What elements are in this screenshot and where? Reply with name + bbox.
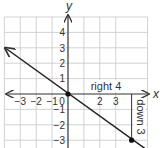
y-tick-label: −1 — [54, 104, 66, 115]
y-tick-label: 3 — [59, 43, 65, 54]
x-tick-label: −2 — [30, 96, 42, 107]
x-tick-label: 2 — [97, 96, 103, 107]
y-tick-label: 1 — [59, 73, 65, 84]
point-origin — [65, 91, 70, 96]
coordinate-plane: x y −3 −2 −1 0 2 3 4 3 2 1 −1 −2 −3 righ… — [0, 0, 162, 148]
rise-label: down 3 — [135, 99, 147, 134]
run-label: right 4 — [91, 80, 122, 92]
x-tick-labels: −3 −2 −1 0 2 3 — [15, 96, 119, 107]
y-axis-label: y — [65, 0, 73, 13]
x-axis-label: x — [152, 87, 160, 101]
y-tick-label: −3 — [54, 135, 66, 146]
y-tick-label: 2 — [59, 58, 65, 69]
x-tick-label: 3 — [113, 96, 119, 107]
point-4-neg3 — [129, 138, 134, 143]
x-tick-label: −3 — [15, 96, 27, 107]
grid — [4, 17, 147, 148]
y-tick-label: −2 — [54, 120, 66, 131]
y-tick-label: 4 — [59, 27, 65, 38]
